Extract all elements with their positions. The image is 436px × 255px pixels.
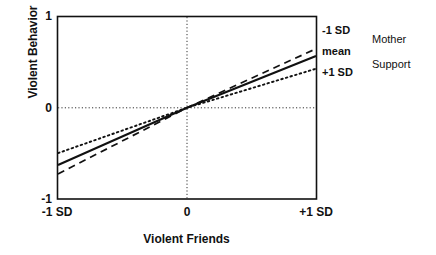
legend-item-mean: mean [322, 45, 351, 57]
legend-title-line-1: Mother [372, 33, 406, 45]
chart-figure: Violent Behavior 1 0 -1 -1 SD 0 +1 SD Vi… [0, 0, 436, 255]
x-tick-label-right: +1 SD [281, 205, 351, 219]
legend-item-plus-1-sd: +1 SD [322, 66, 353, 78]
y-tick-label-bottom: -1 [22, 192, 52, 206]
y-tick-label-mid: 0 [22, 101, 52, 115]
x-tick-label-left: -1 SD [22, 205, 92, 219]
series-line-minus-1-sd [58, 49, 316, 174]
data-lines [58, 49, 316, 174]
legend-item-minus-1-sd: -1 SD [322, 24, 350, 36]
x-axis-title: Violent Friends [57, 232, 316, 246]
x-tick-label-mid: 0 [152, 205, 222, 219]
y-tick-label-top: 1 [22, 9, 52, 23]
legend-title-line-2: Support [372, 58, 411, 70]
